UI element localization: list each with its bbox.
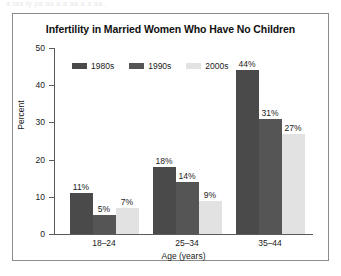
bar-1990s-18–24[interactable]	[93, 215, 116, 234]
bar-value-label-1990s-35–44: 31%	[253, 108, 287, 118]
bar-value-label-1980s-18–24: 11%	[64, 182, 98, 192]
bar-group-2: 18%14%9%	[153, 48, 222, 234]
bar-group-1: 11%5%7%	[70, 48, 139, 234]
x-category-label-2: 25–34	[142, 238, 232, 248]
y-tick-label-50: 50	[21, 43, 45, 53]
y-tick-0	[49, 234, 54, 235]
y-tick-label-20: 20	[21, 155, 45, 165]
bar-2000s-25–34[interactable]	[199, 201, 222, 234]
bar-value-label-1990s-25–34: 14%	[170, 171, 204, 181]
chart-figure-frame: Infertility in Married Women Who Have No…	[12, 13, 329, 261]
x-axis-line	[54, 234, 313, 235]
x-axis-title: Age (years)	[54, 251, 313, 261]
bar-1990s-35–44[interactable]	[259, 119, 282, 234]
chart-title: Infertility in Married Women Who Have No…	[13, 23, 328, 35]
bar-2000s-35–44[interactable]	[282, 134, 305, 234]
bar-value-label-1980s-25–34: 18%	[147, 156, 181, 166]
bar-value-label-1980s-35–44: 44%	[230, 59, 264, 69]
x-category-label-3: 35–44	[225, 238, 315, 248]
y-tick-label-10: 10	[21, 192, 45, 202]
y-tick-label-0: 0	[21, 229, 45, 239]
y-axis-title: Percent	[16, 85, 26, 145]
x-category-label-1: 18–24	[59, 238, 149, 248]
scan-artifact-text: a taa ty pa aa a a aa a a aa ,	[6, 0, 306, 10]
bar-1980s-35–44[interactable]	[236, 70, 259, 234]
bar-value-label-2000s-18–24: 7%	[110, 197, 144, 207]
bar-value-label-2000s-25–34: 9%	[193, 190, 227, 200]
bar-value-label-2000s-35–44: 27%	[276, 123, 310, 133]
bar-2000s-18–24[interactable]	[116, 208, 139, 234]
bar-group-3: 44%31%27%	[236, 48, 305, 234]
plot-area: 11%5%7%18%14%9%44%31%27%	[54, 48, 312, 234]
